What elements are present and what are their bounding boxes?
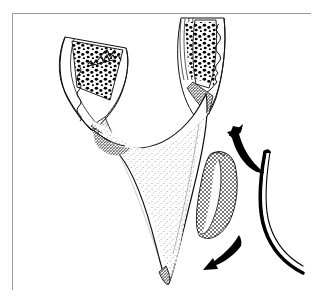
figure-page	[0, 0, 324, 305]
figure-frame	[12, 13, 311, 290]
dental-extraction-illustration	[13, 14, 312, 291]
figure-stage	[13, 14, 312, 291]
top-caption	[0, 0, 324, 9]
